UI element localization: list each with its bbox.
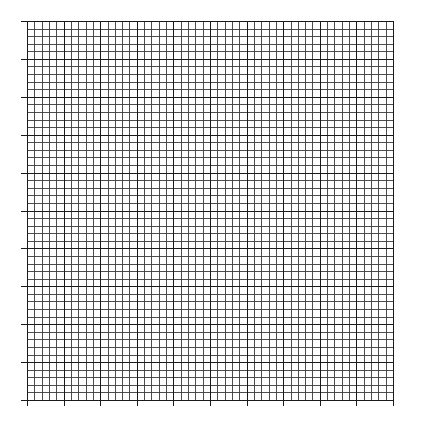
graph-paper-grid (0, 0, 422, 426)
axis-ticks (21, 22, 394, 407)
major-grid-lines (27, 21, 394, 401)
